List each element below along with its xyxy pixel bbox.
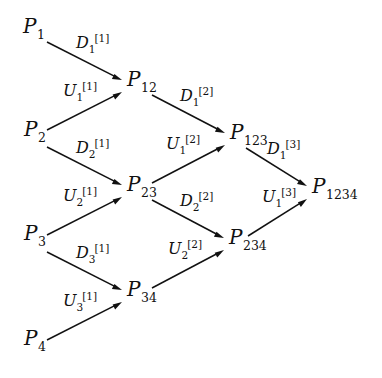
edge-label-e-p3-p23: U2[1] xyxy=(63,185,97,208)
edge-label-e-p34-p234: U2[2] xyxy=(168,238,202,261)
node-p234: P234 xyxy=(228,225,267,253)
edge-label-e-p3-p34: D3[1] xyxy=(75,242,109,265)
node-p2: P2 xyxy=(23,117,46,145)
edge-p4-to-p34 xyxy=(47,302,122,340)
edge-label-e-p12-p123: D1[2] xyxy=(179,85,213,108)
node-p1: P1 xyxy=(22,14,45,42)
edge-p3-to-p23 xyxy=(47,197,122,235)
edge-label-e-p2-p23: D2[1] xyxy=(75,137,109,160)
lattice-diagram: D1[1]U1[1]D2[1]U2[1]D3[1]U3[1]D1[2]U1[2]… xyxy=(0,0,382,378)
node-p3: P3 xyxy=(23,221,46,249)
node-p1234: P1234 xyxy=(311,174,358,202)
node-p4: P4 xyxy=(23,326,46,354)
arrowhead-icon xyxy=(215,250,224,258)
node-p23: P23 xyxy=(126,172,157,200)
arrowhead-icon xyxy=(298,199,307,207)
edge-p2-to-p12 xyxy=(47,92,122,130)
edge-label-e-p2-p12: U1[1] xyxy=(63,80,97,103)
edge-label-e-p1-p12: D1[1] xyxy=(75,32,109,55)
edge-label-e-p23-p123: U1[2] xyxy=(166,133,200,156)
edge-labels-layer: D1[1]U1[1]D2[1]U2[1]D3[1]U3[1]D1[2]U1[2]… xyxy=(63,32,300,313)
edge-label-e-p4-p34: U3[1] xyxy=(63,290,97,313)
arrowhead-icon xyxy=(113,197,122,205)
arrowhead-icon xyxy=(113,92,122,100)
edge-label-e-p123-p1234: D1[3] xyxy=(266,138,300,161)
arrowhead-icon xyxy=(113,302,122,310)
lattice-canvas: D1[1]U1[1]D2[1]U2[1]D3[1]U3[1]D1[2]U1[2]… xyxy=(0,0,382,378)
edge-label-e-p23-p234: D2[2] xyxy=(179,190,213,213)
edge-label-e-p234-p1234: U1[3] xyxy=(262,186,296,209)
arrowhead-icon xyxy=(216,145,225,153)
node-p34: P34 xyxy=(126,277,157,305)
node-p12: P12 xyxy=(126,67,157,95)
edge-p23-to-p123 xyxy=(152,145,225,183)
node-p123: P123 xyxy=(229,120,268,148)
